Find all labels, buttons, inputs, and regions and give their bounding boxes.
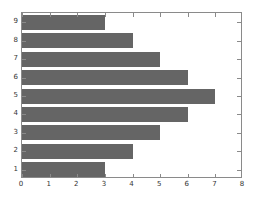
bar-7 xyxy=(22,52,160,67)
y-tick-label-5: 5 xyxy=(9,91,18,100)
y-tick-label-9: 9 xyxy=(9,17,18,26)
x-tick-7 xyxy=(215,174,216,178)
bar-5 xyxy=(22,89,215,104)
bar-fill xyxy=(22,15,105,30)
y-tick-5 xyxy=(22,96,26,97)
y-tick-right-2 xyxy=(237,151,241,152)
bar-fill xyxy=(22,70,188,85)
x-tick-top-1 xyxy=(50,13,51,17)
bar-1 xyxy=(22,162,105,177)
x-tick-label-5: 5 xyxy=(157,180,161,189)
y-tick-right-3 xyxy=(237,133,241,134)
y-tick-label-7: 7 xyxy=(9,54,18,63)
y-tick-right-9 xyxy=(237,22,241,23)
y-tick-label-6: 6 xyxy=(9,72,18,81)
x-tick-top-6 xyxy=(188,13,189,17)
y-tick-right-4 xyxy=(237,114,241,115)
y-tick-right-1 xyxy=(237,170,241,171)
x-tick-top-7 xyxy=(215,13,216,17)
x-tick-5 xyxy=(160,174,161,178)
y-tick-1 xyxy=(22,170,26,171)
y-tick-label-8: 8 xyxy=(9,35,18,44)
y-tick-label-3: 3 xyxy=(9,127,18,136)
bar-fill xyxy=(22,162,105,177)
x-tick-top-4 xyxy=(133,13,134,17)
x-tick-label-1: 1 xyxy=(46,180,50,189)
x-tick-1 xyxy=(50,174,51,178)
y-tick-3 xyxy=(22,133,26,134)
x-tick-top-0 xyxy=(22,13,23,17)
bar-fill xyxy=(22,89,215,104)
bar-fill xyxy=(22,107,188,122)
x-tick-top-3 xyxy=(105,13,106,17)
bar-fill xyxy=(22,33,133,48)
y-tick-label-4: 4 xyxy=(9,109,18,118)
x-tick-label-7: 7 xyxy=(212,180,216,189)
x-tick-label-4: 4 xyxy=(129,180,133,189)
y-tick-right-7 xyxy=(237,59,241,60)
bar-2 xyxy=(22,144,133,159)
y-tick-9 xyxy=(22,22,26,23)
bar-fill xyxy=(22,144,133,159)
x-tick-4 xyxy=(133,174,134,178)
x-tick-6 xyxy=(188,174,189,178)
bar-3 xyxy=(22,125,160,140)
x-tick-3 xyxy=(105,174,106,178)
y-tick-right-6 xyxy=(237,78,241,79)
y-tick-4 xyxy=(22,114,26,115)
bar-8 xyxy=(22,33,133,48)
bar-fill xyxy=(22,125,160,140)
x-tick-2 xyxy=(77,174,78,178)
bar-fill xyxy=(22,52,160,67)
bar-4 xyxy=(22,107,188,122)
bar-9 xyxy=(22,15,105,30)
y-tick-right-8 xyxy=(237,41,241,42)
x-tick-label-0: 0 xyxy=(19,180,23,189)
x-tick-top-2 xyxy=(77,13,78,17)
bar-chart: 012345678 123456789 xyxy=(0,0,255,200)
bar-6 xyxy=(22,70,188,85)
x-tick-label-8: 8 xyxy=(240,180,244,189)
x-tick-label-3: 3 xyxy=(102,180,106,189)
x-tick-label-2: 2 xyxy=(74,180,78,189)
y-tick-7 xyxy=(22,59,26,60)
y-tick-right-5 xyxy=(237,96,241,97)
plot-area xyxy=(21,12,242,178)
x-tick-top-5 xyxy=(160,13,161,17)
y-tick-6 xyxy=(22,78,26,79)
y-tick-2 xyxy=(22,151,26,152)
y-tick-label-2: 2 xyxy=(9,146,18,155)
y-tick-label-1: 1 xyxy=(9,164,18,173)
x-tick-0 xyxy=(22,174,23,178)
x-tick-label-6: 6 xyxy=(185,180,189,189)
y-tick-8 xyxy=(22,41,26,42)
